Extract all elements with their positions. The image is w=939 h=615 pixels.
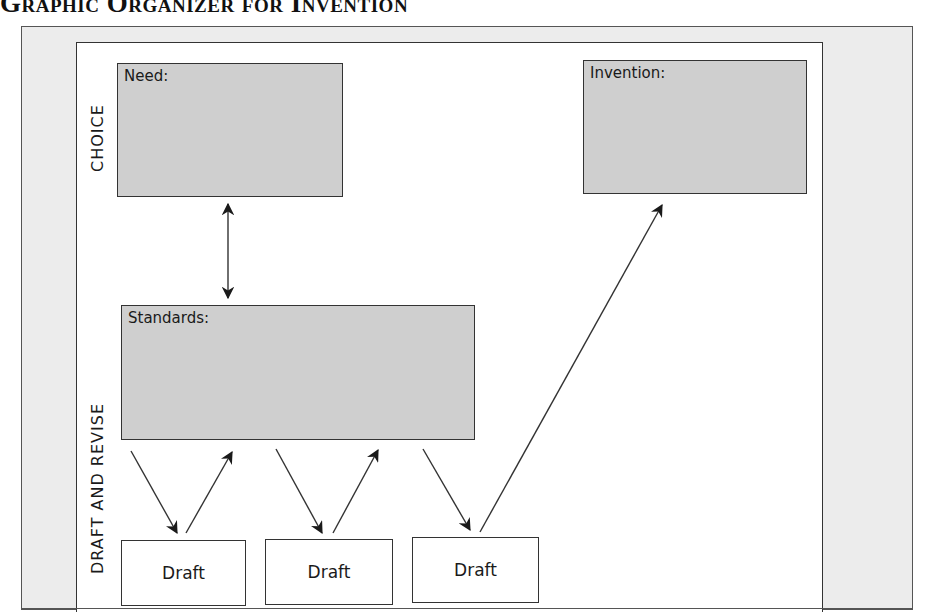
standards-box[interactable]: Standards: xyxy=(121,305,475,440)
invention-label: Invention: xyxy=(590,64,665,82)
need-box[interactable]: Need: xyxy=(117,63,343,197)
section-label-draft-and-revise: DRAFT AND REVISE xyxy=(88,403,107,574)
draft-label: Draft xyxy=(308,562,351,582)
draft-box-1[interactable]: Draft xyxy=(121,540,246,606)
page-title: Graphic Organizer for Invention xyxy=(0,0,408,19)
frame-bottom-border xyxy=(21,608,913,609)
draft-label: Draft xyxy=(454,560,497,580)
invention-box[interactable]: Invention: xyxy=(583,60,807,194)
standards-label: Standards: xyxy=(128,309,209,327)
draft-box-3[interactable]: Draft xyxy=(412,537,539,603)
need-label: Need: xyxy=(124,67,168,85)
draft-label: Draft xyxy=(162,563,205,583)
draft-box-2[interactable]: Draft xyxy=(265,539,393,605)
section-label-choice: CHOICE xyxy=(88,104,107,172)
